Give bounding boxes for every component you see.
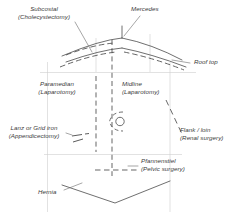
label-hernia-line1: Hernia: [38, 188, 57, 195]
label-lanz: Lanz or Grid iron (Appendicectomy): [0, 124, 68, 140]
label-subcostal-line1: Subcostal: [30, 5, 58, 12]
label-midline-line2: (Laparotomy): [122, 88, 159, 96]
label-rooftop-line1: Roof top: [194, 58, 218, 65]
label-mercedes-line1: Mercedes: [131, 5, 159, 12]
label-pfannenstiel-line1: Pfannenstiel: [141, 157, 176, 164]
label-midline-line1: Midline: [122, 80, 142, 87]
label-rooftop: Roof top: [194, 58, 218, 66]
leader-subcostal: [75, 22, 92, 52]
label-midline: Midline (Laparotomy): [122, 80, 159, 96]
label-paramedian: Paramedian (Laparotomy): [26, 80, 88, 96]
label-mercedes: Mercedes: [131, 5, 159, 13]
label-subcostal: Subcostal (Cholecystectomy): [6, 5, 82, 21]
label-pfannenstiel: Pfannenstiel (Pelvic surgery): [141, 157, 185, 173]
label-flank-line2: (Renal surgery): [180, 134, 223, 142]
label-flank: Flank / loin (Renal surgery): [180, 126, 223, 142]
incision-diagram-canvas: Subcostal (Cholecystectomy) Mercedes Roo…: [0, 0, 234, 220]
label-lanz-line1: Lanz or Grid iron: [11, 124, 58, 131]
label-subcostal-line2: (Cholecystectomy): [6, 13, 82, 21]
label-flank-line1: Flank / loin: [180, 126, 211, 133]
leader-hernia: [64, 183, 82, 190]
label-hernia: Hernia: [38, 188, 57, 196]
leader-rooftop: [172, 60, 190, 63]
label-pfannenstiel-line2: (Pelvic surgery): [141, 165, 185, 173]
leader-lines-layer: [0, 0, 234, 220]
label-paramedian-line1: Paramedian: [40, 80, 74, 87]
leader-mercedes: [124, 16, 140, 36]
label-paramedian-line2: (Laparotomy): [26, 88, 88, 96]
label-lanz-line2: (Appendicectomy): [0, 132, 68, 140]
